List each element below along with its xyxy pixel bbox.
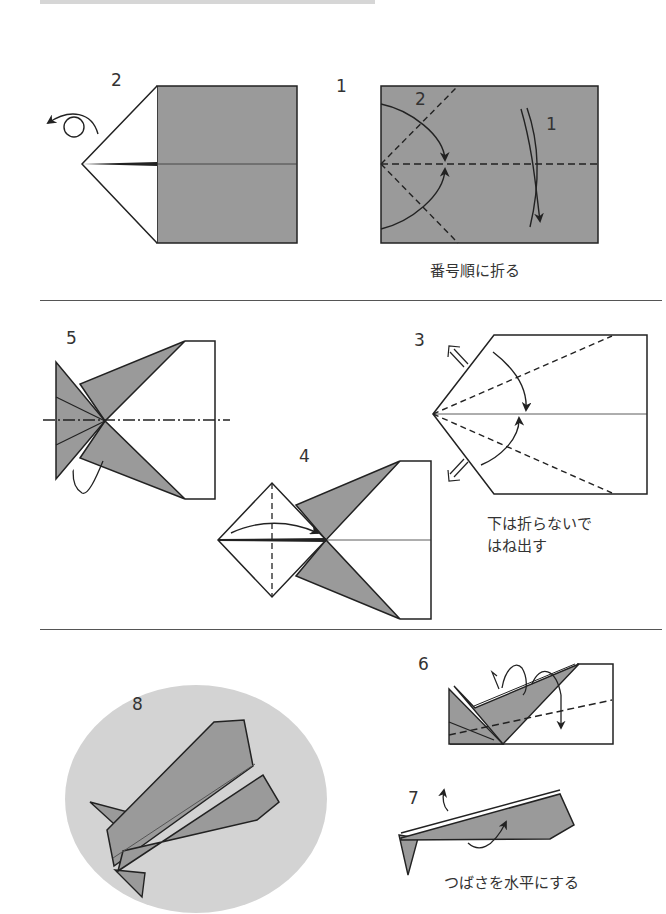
step7-caption: つばさを水平にする [444,873,579,894]
step4-label: 4 [299,448,310,465]
step8-diagram [65,685,327,913]
step3-caption-line1: 下は折らないで [487,514,592,535]
step1-caption: 番号順に折る [430,261,520,282]
step6-label: 6 [418,656,429,673]
step2-diagram [48,86,297,243]
open-arrow-down-icon [448,459,468,481]
step1-label: 1 [336,78,347,95]
step3-label: 3 [414,332,425,349]
step2-label: 2 [111,72,122,89]
section-divider-2 [40,629,662,630]
step1-diagram [381,86,598,243]
step5-label: 5 [66,330,77,347]
step3-diagram [433,335,647,494]
open-arrow-up-icon [448,346,468,367]
step1-inner-label-1: 1 [546,116,557,133]
turn-over-icon [48,114,98,137]
step1-inner-label-2: 2 [415,91,426,108]
section-divider-1 [40,300,662,301]
step6-diagram [449,664,613,744]
step3-caption-line2: はね出す [487,536,547,557]
step5-diagram [43,341,230,499]
step4-diagram [218,461,431,619]
step7-diagram [399,790,574,875]
step7-label: 7 [408,790,419,807]
instruction-diagrams [0,0,666,914]
step8-label: 8 [132,696,143,713]
